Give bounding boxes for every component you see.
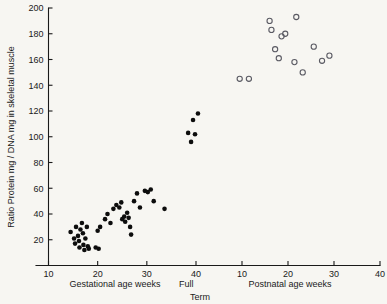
data-point: [279, 34, 284, 39]
data-point: [83, 236, 88, 241]
plot-canvas: 20406080100120140160180200 Ratio Protein…: [0, 0, 387, 304]
series-postnatal-points: [237, 14, 332, 81]
data-point: [87, 246, 92, 251]
data-point: [74, 225, 79, 230]
full-term-label-line1: Full: [179, 279, 194, 289]
x-gestational-tick-label: 20: [93, 269, 103, 279]
data-point: [126, 216, 131, 221]
data-point: [267, 18, 272, 23]
data-point: [77, 239, 82, 244]
x-axis-postnatal: 10203040 Postnatal age weeks: [196, 261, 385, 289]
axis-break-full-term: Full Term: [179, 279, 210, 302]
data-point: [111, 207, 116, 212]
x-postnatal-tick-label: 10: [237, 269, 247, 279]
x-axis-gestational-ticks: 10203040: [43, 261, 201, 279]
data-point: [196, 111, 201, 116]
x-gestational-tick-label: 40: [191, 269, 201, 279]
x-gestational-tick-label: 10: [43, 269, 53, 279]
y-tick-label: 40: [33, 209, 43, 219]
data-point: [77, 245, 82, 250]
x-gestational-tick-label: 30: [142, 269, 152, 279]
data-point: [129, 232, 134, 237]
x-postnatal-tick-label: 20: [283, 269, 293, 279]
data-point: [246, 76, 251, 81]
data-point: [283, 31, 288, 36]
data-point: [68, 230, 73, 235]
data-point: [119, 200, 124, 205]
y-tick-label: 120: [28, 106, 43, 116]
x-axis-gestational-title: Gestational age weeks: [69, 279, 161, 289]
data-point: [78, 227, 83, 232]
data-point: [95, 228, 100, 233]
data-point: [148, 187, 153, 192]
y-axis: 20406080100120140160180200 Ratio Protein…: [6, 3, 53, 265]
data-point: [105, 212, 110, 217]
data-point: [72, 236, 77, 241]
data-point: [132, 199, 137, 204]
data-point: [327, 53, 332, 58]
full-term-label-line2: Term: [190, 292, 210, 302]
y-tick-label: 160: [28, 55, 43, 65]
data-point: [273, 47, 278, 52]
data-point: [80, 221, 85, 226]
scatter-plot-figure: 20406080100120140160180200 Ratio Protein…: [0, 0, 387, 304]
data-point: [135, 191, 140, 196]
data-point: [85, 225, 90, 230]
data-point: [123, 219, 128, 224]
data-point: [294, 14, 299, 19]
data-point: [138, 205, 143, 210]
data-point: [186, 131, 191, 136]
data-point: [276, 56, 281, 61]
data-point: [125, 210, 130, 215]
data-point: [108, 221, 113, 226]
data-point: [73, 241, 78, 246]
data-point: [162, 207, 167, 212]
y-tick-label: 180: [28, 29, 43, 39]
data-point: [189, 140, 194, 145]
y-tick-label: 140: [28, 81, 43, 91]
y-tick-label: 20: [33, 235, 43, 245]
y-tick-label: 60: [33, 184, 43, 194]
data-point: [117, 205, 122, 210]
data-point: [292, 59, 297, 64]
x-axis-postnatal-ticks: 10203040: [237, 261, 385, 279]
y-tick-label: 80: [33, 158, 43, 168]
data-point: [76, 234, 81, 239]
y-tick-label: 100: [28, 132, 43, 142]
y-axis-title: Ratio Protein mg / DNA mg in skeletal mu…: [6, 46, 16, 228]
data-point: [311, 44, 316, 49]
x-postnatal-tick-label: 30: [329, 269, 339, 279]
data-point: [103, 217, 108, 222]
data-point: [96, 246, 101, 251]
data-point: [193, 132, 198, 137]
data-point: [319, 58, 324, 63]
y-tick-label: 200: [28, 3, 43, 13]
x-postnatal-tick-label: 40: [375, 269, 385, 279]
data-point: [269, 27, 274, 32]
data-point: [191, 118, 196, 123]
data-point: [151, 199, 156, 204]
data-point: [81, 231, 86, 236]
data-point: [300, 70, 305, 75]
data-point: [81, 243, 86, 248]
data-point: [98, 225, 103, 230]
x-axis-postnatal-title: Postnatal age weeks: [248, 279, 332, 289]
x-axis-gestational: 10203040 Gestational age weeks: [36, 261, 201, 289]
series-gestational-points: [68, 111, 200, 252]
data-point: [128, 225, 133, 230]
data-point: [122, 214, 127, 219]
data-point: [82, 248, 87, 253]
data-point: [237, 76, 242, 81]
